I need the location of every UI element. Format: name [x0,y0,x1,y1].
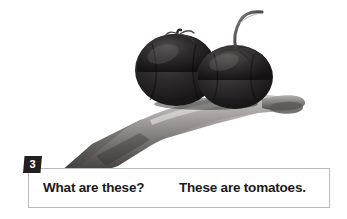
caption-row: What are these? These are tomatoes. [29,169,329,207]
answer-text: These are tomatoes. [179,181,306,195]
fingertip-two [270,102,303,114]
tomatoes-photo [0,0,347,172]
exercise-page: 3 What are these? These are tomatoes. [0,0,347,219]
contact-shadow [154,98,258,110]
question-text: What are these? [43,181,144,195]
item-number-badge: 3 [23,156,42,173]
badge-number: 3 [23,156,42,173]
photo-illustration [0,0,347,172]
caption-box: What are these? These are tomatoes. [28,168,330,208]
